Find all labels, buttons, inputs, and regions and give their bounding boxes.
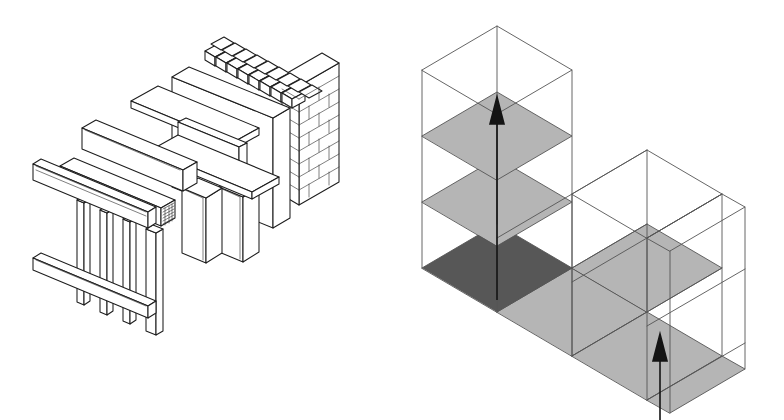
column-front xyxy=(182,178,222,263)
exploded-wall-assembly-diagram xyxy=(0,0,392,420)
isometric-modular-volume-diagram xyxy=(392,0,784,420)
figure-root xyxy=(0,0,784,420)
right-diagram-svg xyxy=(392,0,784,420)
left-diagram-svg xyxy=(0,0,392,420)
bottom-plate xyxy=(33,253,156,318)
